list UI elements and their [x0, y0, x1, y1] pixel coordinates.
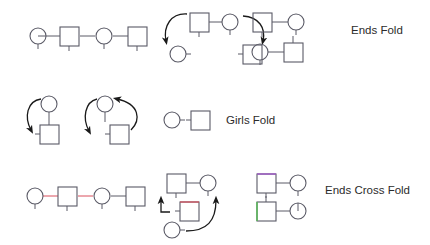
row2-group3: [164, 111, 210, 130]
dancer-circle: [164, 222, 180, 238]
dancer-square: [58, 187, 77, 206]
dancer-square: [257, 202, 276, 221]
row2-group1: [27, 96, 59, 144]
dancer-square: [191, 111, 210, 130]
dancer-circle: [164, 112, 180, 128]
row1-group2: [165, 13, 263, 64]
dancer-circle: [290, 175, 306, 191]
dancer-circle: [170, 46, 186, 62]
cross-fold-arrow: [161, 200, 170, 212]
row3-group1: [27, 187, 145, 211]
dancer-square: [180, 202, 199, 221]
row-label-girls-fold: Girls Fold: [226, 114, 275, 126]
row-ends-fold: Ends Fold: [30, 13, 403, 65]
dancer-circle: [27, 188, 43, 204]
dancer-square: [60, 27, 79, 46]
row-label-ends-cross-fold: Ends Cross Fold: [325, 184, 410, 196]
row3-group3: [257, 174, 306, 221]
dancer-square: [126, 187, 145, 206]
cross-fold-arrow: [186, 200, 216, 231]
dancer-circle: [222, 14, 238, 30]
row-ends-cross-fold: Ends Cross Fold: [27, 174, 410, 238]
dancer-square: [40, 125, 59, 144]
dancer-square: [190, 13, 209, 32]
dancer-square: [167, 174, 186, 193]
row1-group3: [252, 13, 304, 65]
diagram-canvas: Ends Fold Girls Fold: [0, 0, 430, 245]
dancer-circle: [96, 28, 112, 44]
row1-group1: [30, 27, 147, 51]
dance-call-diagram: Ends Fold Girls Fold: [0, 0, 430, 245]
row-girls-fold: Girls Fold: [27, 96, 275, 144]
fold-arrow: [27, 99, 41, 130]
row-label-ends-fold: Ends Fold: [351, 24, 403, 36]
dancer-circle: [94, 188, 110, 204]
dancer-square: [110, 125, 129, 144]
dancer-circle: [252, 44, 268, 60]
fold-arrow: [85, 99, 97, 131]
row3-group2: [161, 174, 216, 238]
dancer-square: [128, 27, 147, 46]
dancer-square: [284, 43, 303, 62]
dancer-circle: [200, 175, 216, 191]
row2-group2: [85, 96, 137, 144]
dancer-square: [257, 174, 276, 193]
dancer-circle: [288, 14, 304, 30]
fold-arrow: [165, 14, 187, 41]
dancer-circle: [97, 96, 113, 112]
dancer-circle: [41, 96, 57, 112]
